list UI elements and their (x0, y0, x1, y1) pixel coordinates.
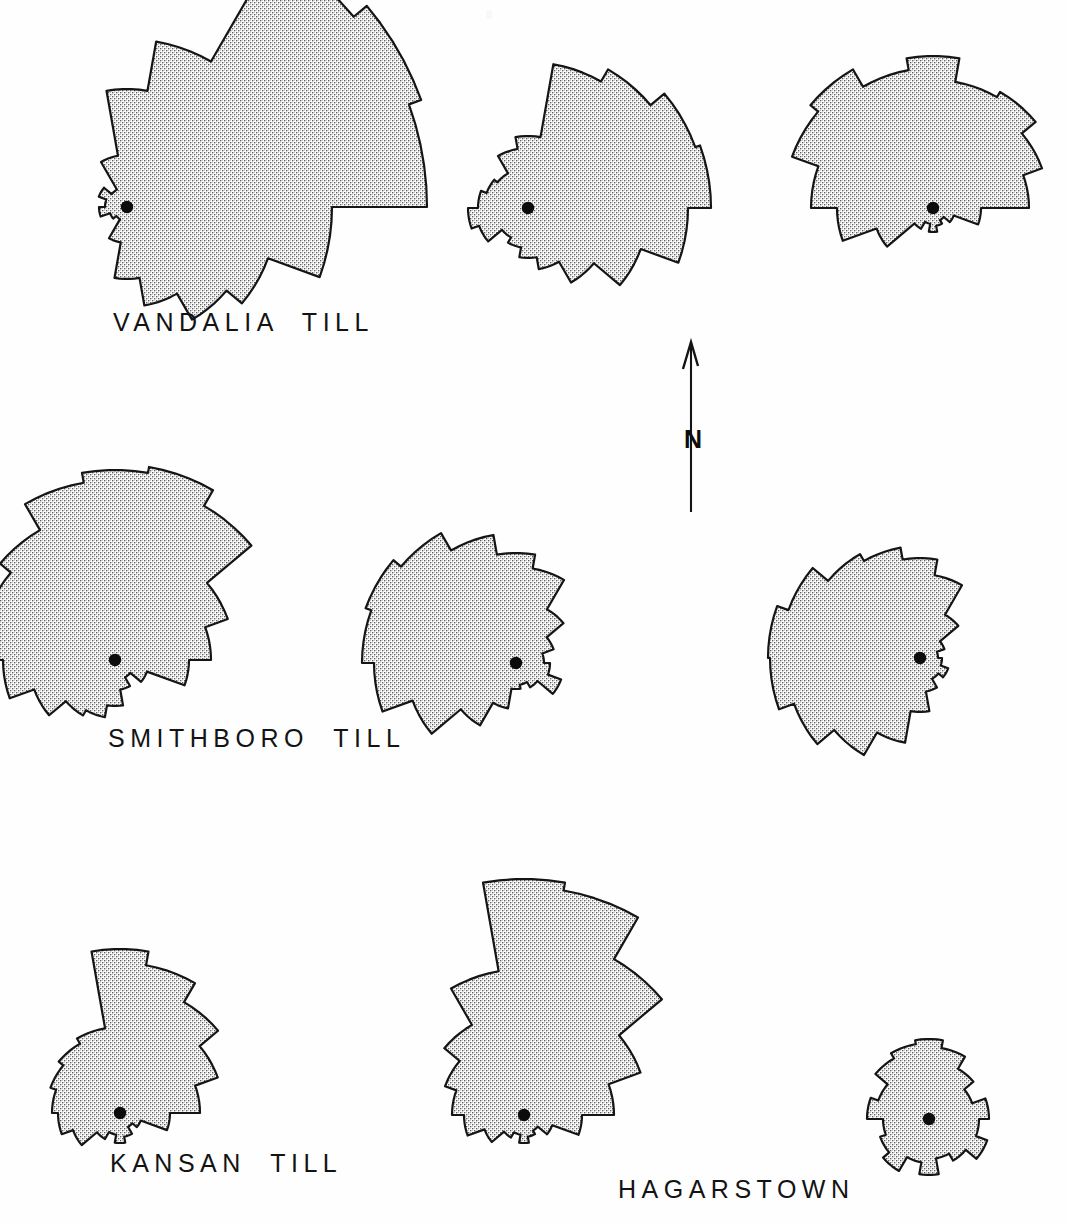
rose-diagram (362, 533, 564, 734)
rose-center-dot (121, 201, 133, 213)
rose-diagram (99, 0, 427, 320)
rose-diagram-figure: N VANDALIA TILL SMITHBORO TILL KANSAN TI… (0, 0, 1066, 1225)
unit-label-hagarstown: HAGARSTOWN BEDS (618, 1113, 855, 1225)
unit-label-kansan: KANSAN TILL (110, 1148, 342, 1179)
rose-center-dot (114, 1107, 126, 1119)
rose-center-dot (927, 202, 939, 214)
rose-diagram (444, 879, 662, 1143)
rose-petal-outline (0, 467, 251, 717)
rose-diagram (50, 949, 218, 1145)
rose-center-dot (914, 652, 926, 664)
rose-petal-outline (468, 64, 711, 285)
unit-label-vandalia: VANDALIA TILL (113, 307, 374, 338)
rose-diagram (792, 56, 1042, 246)
rose-center-dot (510, 657, 522, 669)
rose-center-dot (923, 1113, 935, 1125)
rose-diagram-group (0, 0, 1042, 1175)
rose-diagram-plate (0, 0, 1066, 1225)
north-arrow-label: N (684, 425, 702, 454)
rose-petal-outline (867, 1039, 989, 1175)
rose-petal-outline (50, 949, 218, 1145)
rose-diagram (867, 1039, 989, 1175)
rose-center-dot (522, 202, 534, 214)
rose-diagram (0, 467, 251, 717)
rose-petal-outline (362, 533, 564, 734)
rose-center-dot (518, 1109, 530, 1121)
unit-label-hagarstown-line-1: HAGARSTOWN (618, 1174, 855, 1205)
rose-petal-outline (444, 879, 662, 1143)
rose-diagram (768, 548, 962, 755)
rose-diagram (468, 64, 711, 285)
rose-center-dot (109, 654, 121, 666)
scan-artifact (486, 10, 492, 19)
rose-petal-outline (99, 0, 427, 320)
unit-label-smithboro: SMITHBORO TILL (108, 723, 405, 754)
rose-petal-outline (792, 56, 1042, 246)
rose-petal-outline (768, 548, 962, 755)
